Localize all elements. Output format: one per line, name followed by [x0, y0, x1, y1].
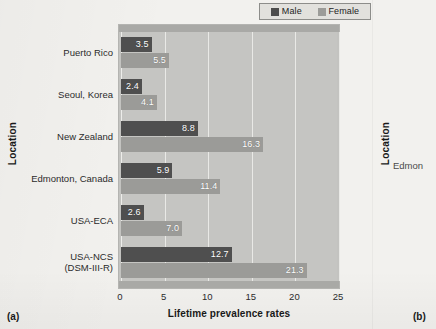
bar-male-0: 3.5: [121, 37, 152, 52]
gridline-0: [121, 32, 122, 281]
legend-swatch-male-icon: [271, 8, 279, 16]
gridline-10: [208, 32, 209, 281]
plot-area: 3.55.52.44.18.816.35.911.42.67.012.721.3: [118, 24, 340, 289]
plot-band-top: [119, 25, 339, 32]
bar-value-label: 2.4: [126, 82, 139, 91]
x-tick-15: 15: [246, 291, 257, 302]
bar-value-label: 4.1: [141, 98, 154, 107]
x-tick-0: 0: [117, 291, 122, 302]
x-axis-title: Lifetime prevalence rates: [120, 308, 338, 319]
bar-value-label: 11.4: [200, 182, 217, 191]
bar-value-label: 8.8: [182, 124, 195, 133]
legend-label-male: Male: [282, 7, 302, 16]
bar-female-0: 5.5: [121, 53, 169, 68]
plot-inner: 3.55.52.44.18.816.35.911.42.67.012.721.3: [121, 32, 337, 281]
x-tick-5: 5: [161, 291, 166, 302]
bar-male-4: 2.6: [121, 205, 144, 220]
bar-male-2: 8.8: [121, 121, 198, 136]
bar-value-label: 21.3: [286, 266, 304, 275]
legend-item-male: Male: [271, 7, 302, 16]
bar-male-1: 2.4: [121, 79, 142, 94]
x-tick-10: 10: [202, 291, 213, 302]
bar-female-3: 11.4: [121, 179, 220, 194]
legend-swatch-female-icon: [318, 8, 326, 16]
gridline-20: [295, 32, 296, 281]
y-axis-tick-label-3: Edmonton, Canada: [31, 173, 113, 184]
bar-female-2: 16.3: [121, 137, 263, 152]
y-axis-tick-label-4: USA-ECA: [71, 215, 113, 226]
plot-band-bottom: [119, 281, 339, 288]
bar-value-label: 3.5: [136, 40, 149, 49]
y-axis-tick-label-2: New Zealand: [57, 131, 113, 142]
y-axis-tick-label-5: USA-NCS(DSM-III-R): [64, 251, 113, 273]
bar-value-label: 2.6: [128, 208, 141, 217]
bar-female-5: 21.3: [121, 263, 307, 278]
x-tick-20: 20: [289, 291, 300, 302]
bar-male-3: 5.9: [121, 163, 172, 178]
gridline-15: [252, 32, 253, 281]
gridline-25: [339, 32, 340, 281]
bar-male-5: 12.7: [121, 247, 232, 262]
y-axis-tick-label-1: Seoul, Korea: [58, 89, 113, 100]
figure-panel-a: Male Female Location Puerto RicoSeoul, K…: [0, 0, 436, 329]
panel-label-a: (a): [7, 311, 19, 322]
y-axis-tick-label-0: Puerto Rico: [63, 47, 113, 58]
legend-item-female: Female: [318, 7, 360, 16]
gridline-5: [165, 32, 166, 281]
bar-value-label: 7.0: [166, 224, 179, 233]
chart-legend: Male Female: [259, 3, 371, 20]
panel-b-partial-category-label: Edmon: [393, 160, 423, 171]
panel-label-b: (b): [413, 311, 426, 322]
bar-female-1: 4.1: [121, 95, 157, 110]
panel-b-y-axis-title: Location: [380, 114, 391, 174]
x-axis-tick-labels: 0510152025: [118, 291, 340, 305]
legend-label-female: Female: [329, 7, 360, 16]
bar-female-4: 7.0: [121, 221, 182, 236]
x-tick-25: 25: [333, 291, 344, 302]
bar-value-label: 16.3: [242, 140, 260, 149]
bar-value-label: 5.5: [153, 56, 166, 65]
panel-divider: [372, 0, 373, 329]
bar-value-label: 12.7: [211, 250, 229, 259]
y-axis-tick-labels: Puerto RicoSeoul, KoreaNew ZealandEdmont…: [8, 26, 117, 289]
bar-value-label: 5.9: [157, 166, 170, 175]
